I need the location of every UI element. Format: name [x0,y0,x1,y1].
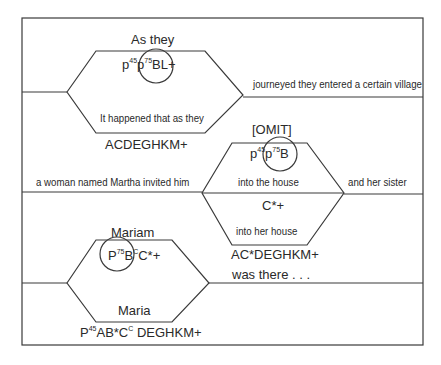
manuscripts-row3-bottom: P45AB*CC DEGHKM+ [80,326,202,339]
label-omit: [OMIT] [252,123,292,136]
manuscripts-row1-bottom: ACDEGHKM+ [105,138,188,151]
label-it-happened: It happened that as they [100,113,204,124]
label-into-her-house: into her house [236,226,297,237]
manuscripts-row1-top: p45p75BL+ [122,58,176,71]
manuscripts-row2-top: p45p75B [250,147,289,160]
label-journeyed: journeyed they entered a certain village [253,79,422,90]
manuscripts-row2-bottom: AC*DEGHKM+ [231,248,319,261]
label-her-sister: and her sister [348,177,407,188]
label-as-they: As they [131,33,174,46]
label-mariam: Mariam [111,226,154,239]
label-was-there: was there . . . [232,268,310,281]
label-into-the-house: into the house [238,177,299,188]
manuscripts-row3-top: P75BCC*+ [108,249,160,262]
label-woman-martha: a woman named Martha invited him [36,177,189,188]
manuscripts-row2-middle: C*+ [262,199,284,212]
label-maria: Maria [118,304,151,317]
